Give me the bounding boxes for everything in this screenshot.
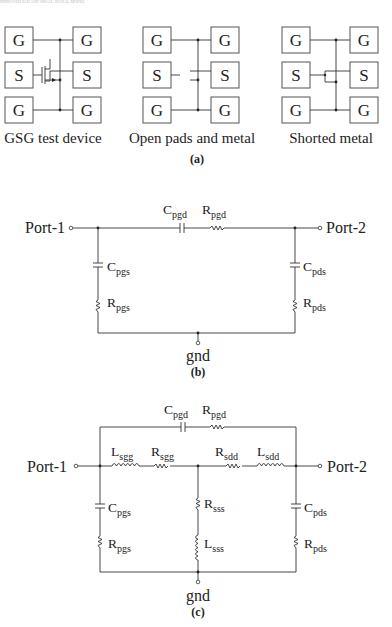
pad-label: G <box>81 101 93 120</box>
pad-label: S <box>82 66 91 85</box>
gsg-test-device: G G S S G G <box>5 27 101 123</box>
pad-label: S <box>152 66 161 85</box>
gnd-label: gnd <box>186 587 210 605</box>
device-caption: Shorted metal <box>289 130 373 146</box>
port1-label: Port-1 <box>25 219 65 236</box>
pad-label: G <box>151 101 163 120</box>
panel-label-a: (a) <box>190 152 204 166</box>
inductor-icon <box>112 464 139 467</box>
inductor-icon <box>196 535 199 560</box>
circuit-c: Cpgd Rpgd Port-1 Port-2 Lsgg Rsgg Rsdd L… <box>27 402 367 605</box>
rsss-label: Rsss <box>204 496 225 514</box>
figure-diagram: G G S S G G GSG test device G G S S G G <box>0 0 392 627</box>
inductor-icon <box>257 464 284 467</box>
cpgs-label: Cpgs <box>107 259 130 277</box>
rsdd-label: Rsdd <box>215 444 238 462</box>
lsgg-label: Lsgg <box>111 444 133 462</box>
resistor-icon <box>294 536 298 548</box>
pad-label: G <box>290 101 302 120</box>
cpds-label: Cpds <box>303 259 326 277</box>
pad-label: G <box>358 101 370 120</box>
pad-label: G <box>81 31 93 50</box>
capacitor-icon <box>95 504 105 508</box>
pad-label: S <box>14 66 23 85</box>
pad-label: G <box>219 31 231 50</box>
cpgd-label: Cpgd <box>164 402 188 420</box>
port1-label: Port-1 <box>27 458 67 475</box>
port2-label: Port-2 <box>326 219 366 236</box>
transistor-icon <box>33 59 73 84</box>
pad-label: S <box>220 66 229 85</box>
pad-label: G <box>358 31 370 50</box>
circuit-b: Port-1 Port-2 Cpgd Rpgd Cpgs Rpgs Cpds R… <box>25 202 366 365</box>
pad-label: G <box>13 31 25 50</box>
pad-label: G <box>290 31 302 50</box>
cpds-label: Cpds <box>304 500 327 518</box>
device-caption: Open pads and metal <box>129 130 255 146</box>
device-caption: GSG test device <box>4 130 102 146</box>
rpds-label: Rpds <box>304 536 327 554</box>
rpgd-label: Rpgd <box>202 402 226 420</box>
capacitor-icon <box>291 504 301 508</box>
cpgs-label: Cpgs <box>108 500 131 518</box>
pad-label: G <box>151 31 163 50</box>
lsdd-label: Lsdd <box>257 444 279 462</box>
rpgs-label: Rpgs <box>107 295 130 313</box>
pad-label: S <box>291 66 300 85</box>
capacitor-icon <box>290 263 300 267</box>
capacitor-icon <box>181 422 185 432</box>
panel-label-c: (c) <box>191 605 204 619</box>
rpgs-label: Rpgs <box>108 536 131 554</box>
capacitor-icon <box>93 263 103 267</box>
shorted-metal-device: G G S S G G <box>282 27 378 123</box>
pad-label: S <box>359 66 368 85</box>
capacitor-icon <box>180 223 184 233</box>
resistor-icon <box>98 536 102 548</box>
lsss-label: Lsss <box>204 536 224 554</box>
gnd-label: gnd <box>186 347 210 365</box>
rsgg-label: Rsgg <box>151 444 174 462</box>
rpgd-label: Rpgd <box>202 202 226 220</box>
rpds-label: Rpds <box>303 295 326 313</box>
cpgd-label: Cpgd <box>163 202 187 220</box>
resistor-icon <box>196 498 200 510</box>
pad-label: G <box>13 101 25 120</box>
resistor-icon <box>226 464 240 468</box>
pad-label: G <box>219 101 231 120</box>
resistor-icon <box>210 425 224 429</box>
resistor-icon <box>96 300 100 312</box>
resistor-icon <box>293 300 297 312</box>
resistor-icon <box>154 464 168 468</box>
panel-label-b: (b) <box>191 365 206 379</box>
port2-label: Port-2 <box>327 458 367 475</box>
resistor-icon <box>210 226 224 230</box>
open-pads-device: G G S S G G <box>143 27 239 123</box>
